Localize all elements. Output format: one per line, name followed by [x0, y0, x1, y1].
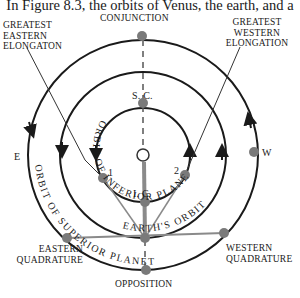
opposition-label: OPPOSITION	[115, 279, 172, 290]
conjunction-point	[137, 31, 147, 41]
point-1-label: 1	[108, 168, 113, 179]
greatest-western-label: GREATEST WESTERN ELONGATION	[222, 17, 292, 49]
greatest-eastern-label: GREATEST EASTERN ELONGATON	[3, 20, 62, 52]
point-2-label: 2	[174, 166, 179, 177]
earth-point	[140, 233, 150, 243]
earth-orbit-label: EARTH'S ORBIT	[122, 198, 208, 234]
conjunction-label: CONJUNCTION	[100, 13, 169, 24]
western-quadrature-label: WESTERN QUADRATURE	[226, 243, 292, 264]
west-point	[249, 147, 259, 157]
arrow-icon	[249, 118, 251, 128]
west-label: W	[262, 148, 272, 159]
east-label: E	[14, 152, 20, 163]
superior-conjunction-label: S. C.	[132, 91, 153, 102]
inferior-conjunction-label: I. C.	[133, 189, 152, 200]
sun-icon	[137, 149, 149, 161]
western-quadrature-point	[219, 228, 229, 238]
eastern-quadrature-label: EASTERN QUADRATURE	[15, 244, 83, 265]
